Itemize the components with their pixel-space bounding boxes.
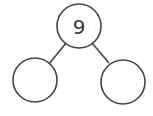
number-bond-diagram: 9 — [0, 0, 153, 116]
whole-value: 9 — [73, 15, 86, 39]
connector-line-left — [49, 43, 66, 64]
number-bond-svg: 9 — [0, 0, 153, 116]
connector-line-right — [92, 43, 109, 63]
part-circle-left[interactable] — [13, 58, 57, 102]
part-circle-right[interactable] — [101, 60, 145, 104]
